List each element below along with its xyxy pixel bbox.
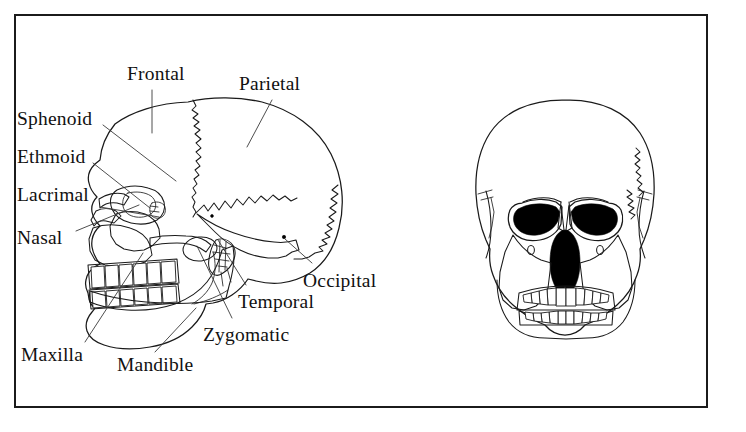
label-frontal: Frontal <box>127 64 185 84</box>
label-sphenoid: Sphenoid <box>17 109 92 129</box>
label-lacrimal: Lacrimal <box>17 185 89 205</box>
label-temporal: Temporal <box>238 292 314 312</box>
figure-border <box>14 14 708 408</box>
skull-diagram-figure: Frontal Parietal Sphenoid Ethmoid Lacrim… <box>0 0 746 432</box>
label-ethmoid: Ethmoid <box>17 147 86 167</box>
label-mandible: Mandible <box>117 355 193 375</box>
label-nasal: Nasal <box>17 228 62 248</box>
label-maxilla: Maxilla <box>21 345 83 365</box>
label-zygomatic: Zygomatic <box>203 325 289 345</box>
label-parietal: Parietal <box>239 74 300 94</box>
label-occipital: Occipital <box>303 271 376 291</box>
